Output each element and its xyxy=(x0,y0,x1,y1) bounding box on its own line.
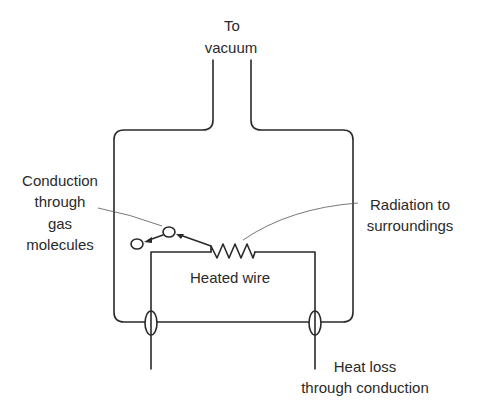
label-surroundings: surroundings xyxy=(367,217,454,234)
label-vacuum: vacuum xyxy=(205,39,258,56)
vacuum-gauge-diagram: To vacuum Conduction through gas molecul… xyxy=(0,0,486,417)
heated-wire-resistor xyxy=(211,244,255,258)
label-gas: gas xyxy=(48,215,72,232)
label-conduction: Conduction xyxy=(22,172,98,189)
label-through-conduction: through conduction xyxy=(301,379,429,396)
gas-molecule xyxy=(163,227,175,237)
gas-molecule xyxy=(131,239,143,249)
arrowhead-icon xyxy=(144,237,152,243)
label-heat-loss: Heat loss xyxy=(334,358,397,375)
leader-line-radiation xyxy=(243,203,358,240)
leader-line-conduction xyxy=(98,208,162,226)
label-to: To xyxy=(224,17,240,34)
label-heated-wire: Heated wire xyxy=(190,269,270,286)
heat-transfer-arrow xyxy=(180,235,211,246)
label-radiation: Radiation to xyxy=(370,196,450,213)
label-through: through xyxy=(35,193,86,210)
label-molecules: molecules xyxy=(26,236,94,253)
